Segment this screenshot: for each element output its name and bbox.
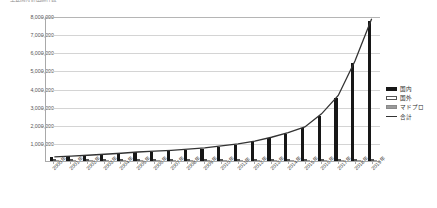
y-axis-tick-mark xyxy=(41,71,44,72)
bar-slot xyxy=(364,17,381,161)
y-axis-tick-mark xyxy=(41,126,44,127)
legend-swatch-madrid xyxy=(386,105,397,109)
bar-group xyxy=(130,17,147,161)
legend-item-国内[interactable]: 国内 xyxy=(386,86,424,92)
bar-slot xyxy=(297,17,314,161)
bar-slot xyxy=(147,17,164,161)
bar-group xyxy=(230,17,247,161)
bar-series-layer xyxy=(46,17,380,161)
legend-label: 国内 xyxy=(400,86,412,92)
bar-group xyxy=(180,17,197,161)
bar-group xyxy=(197,17,214,161)
chart-legend: 国内国外マドプロ合計 xyxy=(386,86,424,120)
bar-slot xyxy=(130,17,147,161)
bar-domestic xyxy=(351,63,354,161)
y-axis-tick-mark xyxy=(41,90,44,91)
y-axis-tick-mark xyxy=(41,17,44,18)
legend-swatch-domestic xyxy=(386,87,397,91)
legend-label: 合計 xyxy=(400,114,412,120)
bar-group xyxy=(214,17,231,161)
legend-swatch-total xyxy=(386,116,397,117)
bar-group xyxy=(297,17,314,161)
bar-domestic xyxy=(301,128,304,161)
legend-item-国外[interactable]: 国外 xyxy=(386,95,424,101)
chart-container: ～ 主要国特許出願件数 ～ 8,000,0007,000,0006,000,00… xyxy=(0,0,437,208)
bar-group xyxy=(247,17,264,161)
bar-group xyxy=(281,17,298,161)
bar-group xyxy=(113,17,130,161)
bar-domestic xyxy=(318,116,321,161)
bar-slot xyxy=(230,17,247,161)
bar-group xyxy=(96,17,113,161)
bar-group xyxy=(163,17,180,161)
plot-area xyxy=(45,17,380,162)
bar-slot xyxy=(163,17,180,161)
chart-title: ～ 主要国特許出願件数 ～ xyxy=(3,0,64,2)
bar-group xyxy=(364,17,381,161)
bar-group xyxy=(264,17,281,161)
bar-group xyxy=(147,17,164,161)
bar-slot xyxy=(197,17,214,161)
y-axis-tick-mark xyxy=(41,35,44,36)
bar-slot xyxy=(281,17,298,161)
bar-slot xyxy=(214,17,231,161)
bar-slot xyxy=(113,17,130,161)
bar-slot xyxy=(348,17,365,161)
bar-group xyxy=(80,17,97,161)
legend-label: 国外 xyxy=(400,95,412,101)
bar-slot xyxy=(264,17,281,161)
bar-slot xyxy=(331,17,348,161)
bar-slot xyxy=(80,17,97,161)
y-axis-tick-mark xyxy=(41,144,44,145)
bar-group xyxy=(63,17,80,161)
bar-group xyxy=(348,17,365,161)
bar-slot xyxy=(314,17,331,161)
legend-item-マドプロ[interactable]: マドプロ xyxy=(386,104,424,110)
bar-domestic xyxy=(284,134,287,161)
legend-label: マドプロ xyxy=(400,104,424,110)
bar-group xyxy=(46,17,63,161)
bar-domestic xyxy=(368,21,371,161)
bar-domestic xyxy=(334,98,337,161)
legend-item-total[interactable]: 合計 xyxy=(386,114,424,120)
bar-slot xyxy=(63,17,80,161)
bar-slot xyxy=(96,17,113,161)
x-axis: 2000年2001年2002年2003年2004年2005年2006年2007年… xyxy=(45,164,380,208)
bar-group xyxy=(331,17,348,161)
bar-slot xyxy=(180,17,197,161)
y-axis-tick-mark xyxy=(41,108,44,109)
bar-domestic xyxy=(267,138,270,161)
legend-swatch-foreign xyxy=(386,96,397,100)
bar-slot xyxy=(46,17,63,161)
bar-group xyxy=(314,17,331,161)
y-axis-tick-mark xyxy=(41,53,44,54)
bar-slot xyxy=(247,17,264,161)
